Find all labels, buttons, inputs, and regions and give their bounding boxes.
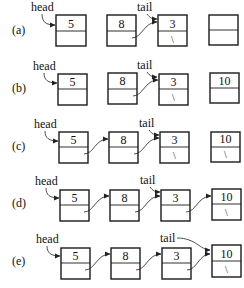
node-value: 3 — [171, 75, 177, 89]
head-pointer-arrow — [44, 73, 57, 83]
tail-label: tail — [137, 0, 153, 14]
head-pointer-arrow — [45, 131, 58, 141]
row-label: (b) — [12, 81, 26, 95]
node-0: 5 — [59, 132, 88, 163]
node-0: 5 — [58, 74, 87, 105]
node-0: 5 — [60, 190, 89, 221]
node-value: 3 — [174, 249, 180, 263]
node-1: 8 — [111, 248, 140, 279]
node-value: 10 — [219, 74, 231, 88]
node-2: 3 — [162, 248, 191, 279]
head-label: head — [36, 232, 59, 246]
row-e: (e) head tail 5 8 3 10 \ — [12, 231, 241, 279]
tail-pointer-arrow — [149, 130, 159, 135]
node-value: 8 — [123, 249, 129, 263]
node-1: 8 — [108, 73, 137, 104]
node-2: 3 \ — [158, 15, 187, 46]
tail-pointer-arrow — [147, 72, 157, 77]
node-value: 8 — [122, 191, 128, 205]
node-value: 8 — [119, 17, 125, 31]
head-label: head — [31, 0, 54, 14]
row-c: (c) head tail 5 8 3 \ 10 \ — [12, 116, 240, 163]
node-value: 8 — [121, 133, 127, 147]
tail-pointer-arrow — [147, 14, 157, 19]
node-value: 5 — [71, 133, 77, 147]
tail-label: tail — [137, 58, 153, 72]
null-pointer: \ — [171, 34, 174, 45]
node-value: 3 — [170, 17, 176, 31]
node-value: 10 — [220, 132, 232, 146]
node-1: 8 — [107, 15, 136, 46]
tail-label: tail — [140, 173, 156, 187]
node-value: 3 — [173, 191, 179, 205]
node-value: 8 — [120, 74, 126, 88]
node-1: 8 — [109, 132, 138, 163]
node-3: 10 — [210, 73, 239, 103]
linked-list-diagram: (a) head tail 5 8 3 \ (b) head — [0, 0, 244, 288]
row-label: (d) — [12, 196, 26, 210]
node-value: 5 — [73, 249, 79, 263]
row-label: (a) — [12, 23, 25, 37]
head-pointer-arrow — [42, 14, 55, 25]
tail-pointer-arrow — [150, 187, 160, 192]
null-pointer: \ — [172, 92, 175, 103]
node-3: 10 \ — [212, 245, 241, 277]
node-0: 5 — [61, 248, 90, 279]
head-label: head — [35, 174, 58, 188]
head-pointer-arrow — [46, 188, 59, 198]
row-d: (d) head tail 5 8 3 10 \ — [12, 173, 241, 221]
node-3 — [209, 15, 238, 45]
node-3: 10 \ — [212, 189, 241, 220]
null-pointer: \ — [225, 207, 228, 218]
null-pointer: \ — [225, 264, 228, 275]
node-value: 3 — [172, 133, 178, 147]
row-a: (a) head tail 5 8 3 \ — [12, 0, 238, 46]
node-value: 10 — [221, 247, 233, 261]
head-label: head — [33, 59, 56, 73]
null-pointer: \ — [224, 149, 227, 160]
node-0: 5 — [56, 15, 86, 46]
null-pointer: \ — [173, 150, 176, 161]
row-label: (c) — [12, 139, 25, 153]
node-2: 3 — [161, 190, 190, 221]
node-value: 5 — [68, 17, 74, 31]
node-1: 8 — [110, 190, 139, 221]
head-pointer-arrow — [47, 246, 60, 256]
node-2: 3 \ — [160, 132, 189, 163]
node-value: 5 — [72, 191, 78, 205]
node-2: 3 \ — [159, 74, 188, 105]
row-label: (e) — [12, 254, 25, 268]
head-label: head — [34, 117, 57, 131]
node-value: 5 — [70, 75, 76, 89]
row-b: (b) head tail 5 8 3 \ 10 — [12, 58, 239, 105]
node-value: 10 — [221, 190, 233, 204]
tail-label: tail — [139, 116, 155, 130]
node-3: 10 \ — [211, 132, 240, 162]
tail-label: tail — [160, 231, 176, 245]
